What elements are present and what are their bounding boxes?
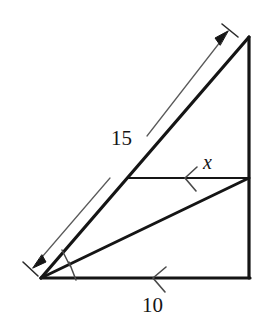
direction-markers	[153, 167, 197, 292]
dimension-arrowhead-lower	[33, 255, 46, 268]
hypotenuse-line	[41, 37, 249, 278]
angle-tick-upper	[62, 250, 70, 266]
geometry-canvas	[0, 0, 267, 329]
hypotenuse-length-label: 15	[111, 128, 132, 149]
mid-segment-length-label: x	[203, 152, 212, 172]
angle-bisector-line	[41, 178, 249, 278]
interior-segments	[41, 178, 249, 278]
hypotenuse-dimension-line	[23, 24, 238, 276]
base-length-label: 10	[142, 295, 163, 316]
dimension-shaft-upper	[147, 37, 224, 136]
dimension-arrowhead-upper	[215, 31, 228, 45]
triangle-outline	[41, 37, 250, 278]
equal-angle-ticks	[62, 250, 76, 280]
geometry-figure: 15 10 x	[0, 0, 267, 329]
